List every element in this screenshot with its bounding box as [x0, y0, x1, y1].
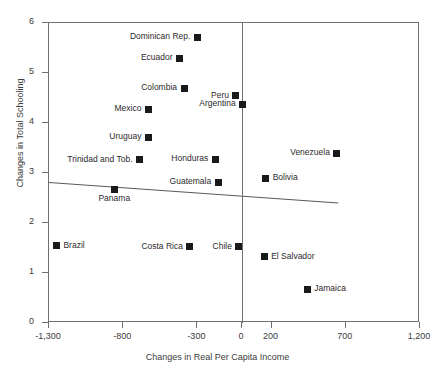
data-point-label: El Salvador [271, 252, 314, 261]
data-point-label: Dominican Rep. [130, 32, 190, 41]
x-tick-label: -800 [92, 331, 152, 341]
scatter-chart: Changes in Total Schooling 0123456 -1,30… [0, 0, 435, 377]
x-tick-label: 700 [315, 331, 375, 341]
x-tick [196, 322, 197, 328]
data-point-label: Trinidad and Tob. [67, 155, 132, 164]
y-tick-label: 1 [8, 267, 34, 276]
data-point-label: Uruguay [109, 132, 141, 141]
data-point-marker [304, 286, 311, 293]
data-point-label: Guatemala [170, 177, 212, 186]
data-point-label: Costa Rica [141, 242, 183, 251]
data-point-marker [145, 106, 152, 113]
data-point-marker [262, 175, 269, 182]
data-point-marker [212, 156, 219, 163]
x-tick [419, 322, 420, 328]
y-tick-label: 6 [8, 17, 34, 26]
data-point-marker [176, 55, 183, 62]
data-point-marker [53, 242, 60, 249]
data-point-label: Argentina [199, 99, 235, 108]
x-tick-label: -1,300 [18, 331, 78, 341]
y-tick-label: 5 [8, 67, 34, 76]
data-point-marker [186, 243, 193, 250]
data-point-marker [194, 34, 201, 41]
data-point-marker [235, 243, 242, 250]
y-tick-label: 2 [8, 217, 34, 226]
data-point-marker [145, 134, 152, 141]
data-point-marker [261, 253, 268, 260]
y-tick-label: 0 [8, 317, 34, 326]
data-point-marker [215, 179, 222, 186]
data-point-label: Jamaica [314, 284, 346, 293]
data-point-label: Mexico [114, 104, 141, 113]
data-point-label: Chile [213, 242, 232, 251]
x-tick [122, 322, 123, 328]
data-point-marker [111, 186, 118, 193]
data-point-marker [136, 156, 143, 163]
y-tick-label: 3 [8, 167, 34, 176]
x-tick [345, 322, 346, 328]
data-point-label: Panama [98, 194, 130, 203]
data-point-label: Ecuador [141, 53, 173, 62]
x-tick-label: 200 [241, 331, 301, 341]
plot-area: Dominican Rep.EcuadorColombiaPeruArgenti… [48, 22, 419, 322]
data-point-label: Brazil [63, 241, 84, 250]
data-point-label: Colombia [141, 83, 177, 92]
x-tick [48, 322, 49, 328]
data-point-label: Bolivia [273, 173, 298, 182]
zero-reference-line [242, 23, 243, 323]
x-tick-label: 1,200 [389, 331, 435, 341]
x-axis-title: Changes in Real Per Capita Income [0, 352, 435, 362]
y-tick-label: 4 [8, 117, 34, 126]
data-point-marker [333, 150, 340, 157]
y-axis-title: Changes in Total Schooling [15, 58, 25, 208]
data-point-marker [181, 85, 188, 92]
data-point-label: Venezuela [290, 148, 330, 157]
data-point-marker [239, 101, 246, 108]
x-tick [271, 322, 272, 328]
data-point-label: Honduras [171, 154, 208, 163]
